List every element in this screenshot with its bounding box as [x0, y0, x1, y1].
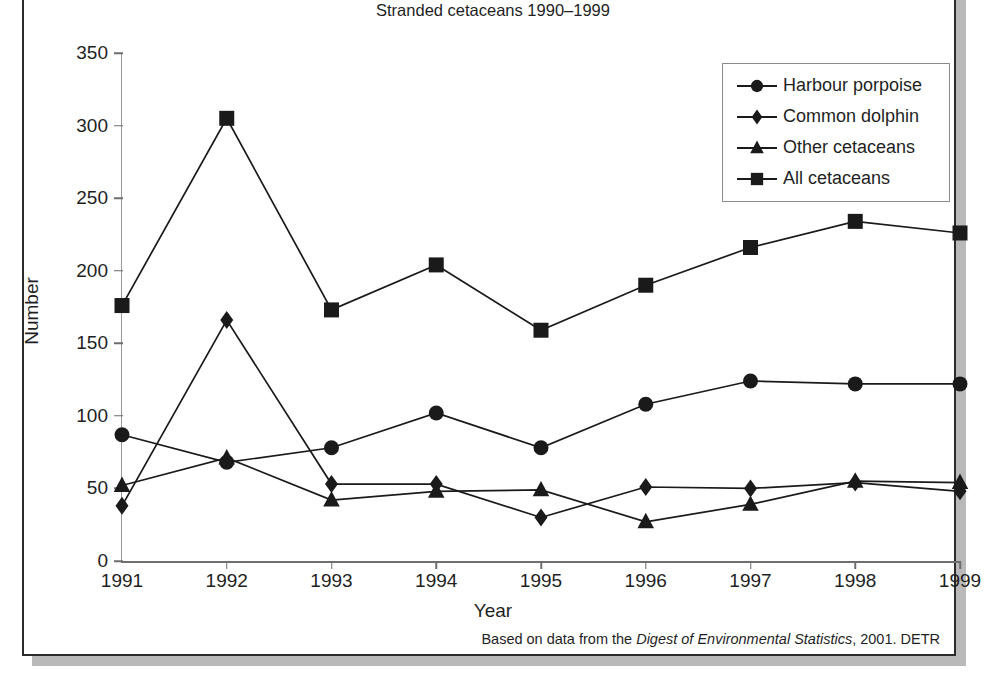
- data-point-marker: [847, 472, 864, 487]
- legend-item-all-cetaceans[interactable]: All cetaceans: [723, 163, 949, 194]
- data-point-marker: [115, 427, 130, 442]
- diamond-marker-icon: [735, 107, 779, 127]
- legend-item-other-cetaceans[interactable]: Other cetaceans: [723, 132, 949, 163]
- data-point-marker: [535, 508, 548, 526]
- data-point-marker: [218, 449, 235, 464]
- series-harbour-porpoise: [115, 374, 968, 470]
- data-point-marker: [743, 240, 758, 255]
- data-point-marker: [952, 474, 969, 489]
- data-point-marker: [219, 111, 234, 126]
- data-point-marker: [638, 397, 653, 412]
- data-point-marker: [534, 323, 549, 338]
- data-point-marker: [953, 225, 968, 240]
- chart-legend: Harbour porpoiseCommon dolphinOther ceta…: [722, 63, 950, 202]
- data-point-marker: [848, 376, 863, 391]
- data-point-marker: [639, 478, 652, 496]
- legend-item-common-dolphin[interactable]: Common dolphin: [723, 101, 949, 132]
- data-point-marker: [953, 376, 968, 391]
- caption-suffix: , 2001. DETR: [852, 631, 940, 647]
- data-point-marker: [744, 479, 757, 497]
- data-point-marker: [534, 440, 549, 455]
- legend-label: Other cetaceans: [783, 137, 915, 158]
- legend-label: All cetaceans: [783, 168, 890, 189]
- circle-marker-icon: [735, 76, 779, 96]
- legend-label: Common dolphin: [783, 106, 919, 127]
- caption-prefix: Based on data from the: [481, 631, 636, 647]
- legend-label: Harbour porpoise: [783, 75, 922, 96]
- square-marker-icon: [735, 169, 779, 189]
- data-point-marker: [116, 497, 129, 515]
- data-point-marker: [429, 405, 444, 420]
- data-point-marker: [848, 214, 863, 229]
- data-point-marker: [324, 440, 339, 455]
- legend-item-harbour-porpoise[interactable]: Harbour porpoise: [723, 70, 949, 101]
- triangle-marker-icon: [735, 138, 779, 158]
- figure-caption: Based on data from the Digest of Environ…: [0, 631, 940, 647]
- data-point-marker: [324, 302, 339, 317]
- data-point-marker: [743, 374, 758, 389]
- caption-source-title: Digest of Environmental Statistics: [636, 631, 852, 647]
- data-point-marker: [533, 481, 550, 496]
- data-point-marker: [429, 257, 444, 272]
- data-point-marker: [638, 278, 653, 293]
- data-point-marker: [115, 298, 130, 313]
- stranded-cetaceans-line-chart: Stranded cetaceans 1990–1999 05010015020…: [0, 0, 986, 680]
